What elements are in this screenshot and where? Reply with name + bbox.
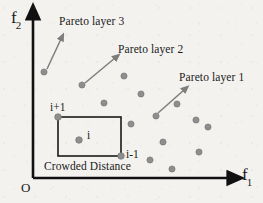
x-axis-label-subscript: 1 [247,176,253,188]
layer2-arrow-icon [85,58,115,83]
solution-point [193,117,199,123]
pareto-layer-2-label: Pareto layer 2 [118,44,183,56]
solution-point [41,69,47,75]
y-axis-label: f2 [11,9,22,29]
solution-point [138,91,144,97]
figure-canvas [0,0,263,203]
point-i-plus-1 [55,114,62,121]
crowded-distance-label: Crowded Distance [44,161,131,173]
point-i-minus-1-label: i-1 [126,149,139,161]
y-axis-label-subscript: 2 [16,19,22,31]
point-i-plus-1-label: i+1 [50,102,65,114]
solution-point [196,149,202,155]
solution-point [169,166,175,172]
point-i [76,137,83,144]
solution-point [79,82,85,88]
layer1-arrow-icon [158,90,184,113]
solution-point [174,101,180,107]
pareto-layer-1-label: Pareto layer 1 [179,72,244,84]
solution-point [121,73,127,79]
point-i-label: i [87,130,90,142]
solution-point [205,124,211,130]
solution-point [128,121,134,127]
solution-point [160,139,166,145]
point-i-minus-1 [118,153,125,160]
solution-point [101,100,107,106]
solution-point [153,113,159,119]
solution-point [147,157,153,163]
layer3-arrow-icon [47,39,61,69]
x-axis-label: f1 [242,166,253,186]
origin-label: O [21,181,30,194]
pareto-layers-figure: f2 f1 O Pareto layer 3 Pareto layer 2 Pa… [0,0,263,203]
pareto-layer-3-label: Pareto layer 3 [59,16,124,28]
